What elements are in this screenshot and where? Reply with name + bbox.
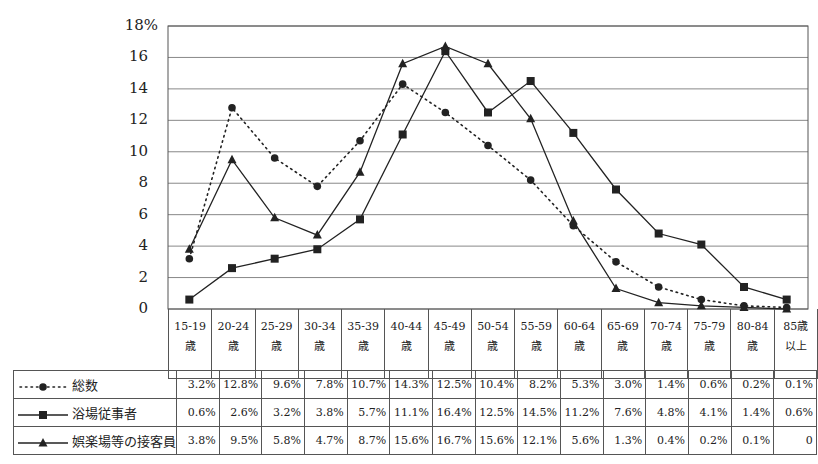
table-cell: 16.4% <box>432 399 475 427</box>
table-cell: 12.8% <box>219 371 262 399</box>
triangle-marker-icon <box>569 216 578 225</box>
y-tick-label: 14 <box>98 79 148 97</box>
circle-marker-icon <box>399 80 407 88</box>
square-marker-icon <box>484 108 492 116</box>
series-name: 総数 <box>72 378 98 393</box>
table-cell: 0 <box>774 427 817 455</box>
circle-marker-icon <box>228 104 236 112</box>
y-tick-label: 2 <box>98 268 148 286</box>
age-category-label: 45-49歳 <box>428 309 471 379</box>
table-row: 娯楽場等の接客員3.8%9.5%5.8%4.7%8.7%15.6%16.7%15… <box>14 427 817 455</box>
table-cell: 0.2% <box>688 427 731 455</box>
plot-area <box>168 26 808 309</box>
y-tick-label: 12 <box>98 110 148 128</box>
age-category-label: 25-29歳 <box>255 309 298 379</box>
table-cell: 15.6% <box>475 427 518 455</box>
square-marker-icon <box>612 186 620 194</box>
table-cell: 1.4% <box>646 371 689 399</box>
square-marker-icon <box>271 255 279 263</box>
table-cell: 10.7% <box>347 371 390 399</box>
y-tick-label: 4 <box>98 236 148 254</box>
triangle-marker-icon <box>441 41 450 50</box>
y-tick-label: 10 <box>98 142 148 160</box>
table-cell: 5.3% <box>560 371 603 399</box>
table-cell: 3.0% <box>603 371 646 399</box>
circle-marker-icon <box>527 176 535 184</box>
age-category-label: 55-59歳 <box>515 309 558 379</box>
triangle-marker-icon <box>612 284 621 293</box>
square-marker-icon <box>740 283 748 291</box>
table-cell: 5.7% <box>347 399 390 427</box>
table-cell: 15.6% <box>390 427 433 455</box>
square-marker-icon <box>228 264 236 272</box>
triangle-legend-icon <box>18 438 68 448</box>
y-tick-label: 18% <box>108 16 158 34</box>
age-category-label: 35-39歳 <box>342 309 385 379</box>
table-cell: 12.1% <box>518 427 561 455</box>
legend-entry: 娯楽場等の接客員 <box>14 427 177 455</box>
circle-marker-icon <box>655 283 663 291</box>
table-cell: 7.8% <box>304 371 347 399</box>
table-cell: 11.1% <box>390 399 433 427</box>
square-marker-icon <box>527 77 535 85</box>
table-cell: 4.1% <box>688 399 731 427</box>
age-category-label: 70-74歳 <box>644 309 687 379</box>
table-cell: 12.5% <box>432 371 475 399</box>
legend-entry: 総数 <box>14 371 177 399</box>
square-marker-icon <box>697 241 705 249</box>
circle-marker-icon <box>314 183 322 191</box>
data-table: 総数3.2%12.8%9.6%7.8%10.7%14.3%12.5%10.4%8… <box>13 370 817 455</box>
square-marker-icon <box>313 245 321 253</box>
table-cell: 9.5% <box>219 427 262 455</box>
series-line <box>189 46 786 309</box>
square-marker-icon <box>185 296 193 304</box>
table-cell: 14.3% <box>390 371 433 399</box>
age-category-label: 60-64歳 <box>558 309 601 379</box>
table-cell: 12.5% <box>475 399 518 427</box>
circle-marker-icon <box>186 255 194 263</box>
table-cell: 3.2% <box>262 399 305 427</box>
table-cell: 9.6% <box>262 371 305 399</box>
table-cell: 0.6% <box>688 371 731 399</box>
series-name: 娯楽場等の接客員 <box>72 434 176 449</box>
triangle-marker-icon <box>228 155 237 164</box>
table-cell: 0.1% <box>774 371 817 399</box>
table-cell: 10.4% <box>475 371 518 399</box>
age-category-header: 15-19歳20-24歳25-29歳30-34歳35-39歳40-44歳45-4… <box>168 309 818 379</box>
circle-marker-icon <box>612 258 620 266</box>
age-category-label: 65-69歳 <box>601 309 644 379</box>
table-row: 総数3.2%12.8%9.6%7.8%10.7%14.3%12.5%10.4%8… <box>14 371 817 399</box>
table-cell: 3.8% <box>304 399 347 427</box>
age-category-label: 85歳以上 <box>774 309 817 379</box>
y-tick-label: 8 <box>98 173 148 191</box>
table-cell: 3.8% <box>177 427 220 455</box>
square-marker-icon <box>399 130 407 138</box>
circle-marker-icon <box>484 142 492 150</box>
circle-legend-icon <box>18 382 68 392</box>
table-row: 浴場従事者0.6%2.6%3.2%3.8%5.7%11.1%16.4%12.5%… <box>14 399 817 427</box>
square-marker-icon <box>356 215 364 223</box>
square-marker-icon <box>655 230 663 238</box>
table-cell: 5.6% <box>560 427 603 455</box>
age-category-label: 50-54歳 <box>471 309 514 379</box>
y-tick-label: 0 <box>98 299 148 317</box>
series-line <box>189 84 786 307</box>
circle-marker-icon <box>271 154 279 162</box>
table-cell: 0.6% <box>177 399 220 427</box>
series-name: 浴場従事者 <box>72 406 137 421</box>
square-marker-icon <box>569 129 577 137</box>
table-cell: 14.5% <box>518 399 561 427</box>
table-cell: 1.4% <box>731 399 774 427</box>
table-cell: 16.7% <box>432 427 475 455</box>
circle-marker-icon <box>442 109 450 117</box>
table-cell: 7.6% <box>603 399 646 427</box>
table-cell: 5.8% <box>262 427 305 455</box>
table-cell: 0.6% <box>774 399 817 427</box>
table-cell: 3.2% <box>177 371 220 399</box>
y-tick-label: 6 <box>98 205 148 223</box>
age-category-label: 30-34歳 <box>298 309 341 379</box>
table-cell: 1.3% <box>603 427 646 455</box>
square-marker-icon <box>783 296 791 304</box>
table-cell: 2.6% <box>219 399 262 427</box>
legend-entry: 浴場従事者 <box>14 399 177 427</box>
